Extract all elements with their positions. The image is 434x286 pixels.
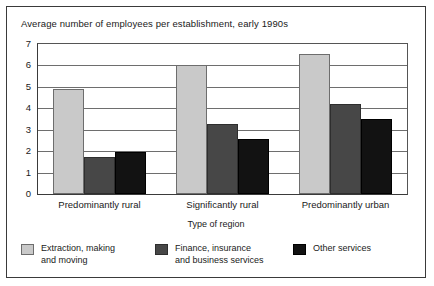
legend-swatch-icon xyxy=(21,244,34,255)
bar xyxy=(115,152,146,194)
legend-item-label: Finance, insurance and business services xyxy=(175,243,264,266)
bars-layer xyxy=(38,44,407,194)
y-axis-tick: 6 xyxy=(26,61,31,71)
y-axis-tick: 1 xyxy=(26,168,31,178)
bar xyxy=(207,124,238,194)
x-axis-tick: Predominantly rural xyxy=(58,199,140,210)
bar xyxy=(176,65,207,194)
y-axis-tick: 2 xyxy=(26,146,31,156)
bar xyxy=(84,157,115,195)
y-axis-tick: 7 xyxy=(26,39,31,49)
y-axis-tick: 0 xyxy=(26,189,31,199)
x-axis-tick-labels: Predominantly ruralSignificantly ruralPr… xyxy=(37,199,408,215)
legend-item-extraction-making-and-moving: Extraction, making and moving xyxy=(21,243,151,266)
legend-item-label: Other services xyxy=(313,243,371,255)
bar xyxy=(53,89,84,194)
legend-item-label: Extraction, making and moving xyxy=(41,243,115,266)
bar xyxy=(361,119,392,194)
bar xyxy=(299,54,330,194)
x-axis-tick: Predominantly urban xyxy=(302,199,390,210)
x-axis-title: Type of region xyxy=(7,219,425,229)
legend-swatch-icon xyxy=(155,244,168,255)
bar xyxy=(238,139,269,194)
bar xyxy=(330,104,361,194)
y-axis-tick-labels: 01234567 xyxy=(15,43,35,195)
x-axis-tick: Significantly rural xyxy=(186,199,258,210)
y-axis-tick: 4 xyxy=(26,104,31,114)
legend-item-finance-insurance-and-business-services: Finance, insurance and business services xyxy=(155,243,289,266)
chart-title: Average number of employees per establis… xyxy=(21,18,288,29)
legend-item-other-services: Other services xyxy=(293,243,413,255)
legend-swatch-icon xyxy=(293,244,306,255)
chart-legend: Extraction, making and moving Finance, i… xyxy=(21,243,413,273)
chart-figure: Average number of employees per establis… xyxy=(6,6,426,278)
y-axis-tick: 3 xyxy=(26,125,31,135)
y-axis-tick: 5 xyxy=(26,82,31,92)
